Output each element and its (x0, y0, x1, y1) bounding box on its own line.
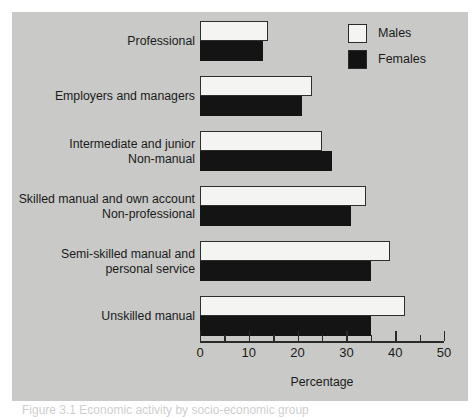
category-label-line: personal service (105, 262, 195, 277)
bar-females (200, 261, 371, 281)
x-axis-tick-label: 40 (375, 345, 415, 360)
bar-females (200, 316, 371, 336)
x-axis-tick (298, 331, 299, 341)
category-label: Intermediate and juniorNon-manual (0, 131, 195, 172)
category-label-line: Employers and managers (55, 89, 195, 104)
bar-males (200, 296, 405, 316)
bar-males (200, 76, 312, 96)
bar-group: Unskilled manual (0, 296, 476, 337)
x-axis-tick-label: 10 (229, 345, 269, 360)
category-label-line: Intermediate and junior (69, 137, 195, 152)
x-axis-tick (200, 331, 201, 341)
category-label: Professional (0, 21, 195, 62)
category-label-line: Non-manual (128, 152, 195, 167)
x-axis-title: Percentage (200, 375, 444, 389)
category-label: Employers and managers (0, 76, 195, 117)
x-axis-tick-label: 50 (424, 345, 464, 360)
bar-females (200, 41, 263, 61)
category-label: Unskilled manual (0, 296, 195, 337)
x-axis-tick (395, 331, 396, 341)
bar-males (200, 186, 366, 206)
category-label-line: Professional (127, 34, 195, 49)
category-label-line: Skilled manual and own account (19, 192, 195, 207)
category-label: Semi-skilled manual andpersonal service (0, 241, 195, 282)
x-axis-tick (420, 335, 421, 341)
x-axis-tick (273, 335, 274, 341)
figure-caption: Figure 3.1 Economic activity by socio-ec… (22, 403, 462, 417)
bar-males (200, 241, 390, 261)
bar-group: Skilled manual and own accountNon-profes… (0, 186, 476, 227)
bar-males (200, 131, 322, 151)
bar-females (200, 206, 351, 226)
x-axis-tick (371, 335, 372, 341)
x-axis-tick-label: 30 (326, 345, 366, 360)
category-label-line: Semi-skilled manual and (61, 247, 195, 262)
category-label-line: Unskilled manual (101, 309, 195, 324)
x-axis-line (200, 341, 444, 343)
bar-group: Semi-skilled manual andpersonal service (0, 241, 476, 282)
x-axis-tick (249, 331, 250, 341)
bar-females (200, 151, 332, 171)
bar-males (200, 21, 268, 41)
x-axis-tick (444, 331, 445, 341)
x-axis-tick (346, 331, 347, 341)
x-axis-tick (322, 335, 323, 341)
category-label-line: Non-professional (102, 207, 195, 222)
bar-females (200, 96, 302, 116)
x-axis-tick (224, 335, 225, 341)
x-axis-tick-label: 20 (278, 345, 318, 360)
bar-group: Intermediate and juniorNon-manual (0, 131, 476, 172)
x-axis-tick-label: 0 (180, 345, 220, 360)
bar-group: Employers and managers (0, 76, 476, 117)
bar-group: Professional (0, 21, 476, 62)
category-label: Skilled manual and own accountNon-profes… (0, 186, 195, 227)
